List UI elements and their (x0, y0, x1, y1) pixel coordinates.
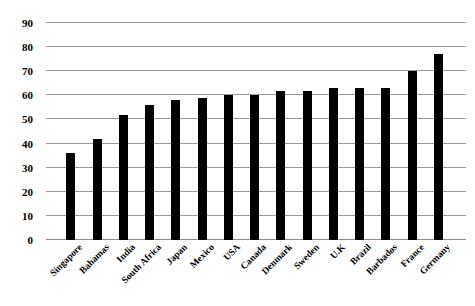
bar (276, 91, 285, 240)
bar-series (46, 23, 466, 240)
y-axis-tick-label: 60 (0, 89, 38, 101)
plot-area (46, 23, 466, 240)
y-axis-tick-label: 30 (0, 162, 38, 174)
bar (198, 98, 207, 240)
bar (66, 153, 75, 240)
y-axis-tick-label: 40 (0, 138, 38, 150)
y-axis-tick-label: 90 (0, 17, 38, 29)
bar (355, 88, 364, 240)
y-axis-tick-label: 50 (0, 113, 38, 125)
bar (224, 95, 233, 240)
bar (119, 115, 128, 240)
bar (381, 88, 390, 240)
y-axis-tick-label: 10 (0, 210, 38, 222)
bar (145, 105, 154, 240)
bar (250, 95, 259, 240)
bar-chart: 0102030405060708090 SingaporeBahamasIndi… (0, 0, 475, 306)
y-axis-tick-label: 20 (0, 186, 38, 198)
x-axis-labels: SingaporeBahamasIndiaSouth AfricaJapanMe… (46, 242, 466, 306)
bar (408, 71, 417, 240)
y-axis-tick-label: 0 (0, 234, 38, 246)
bar (303, 91, 312, 240)
bar (434, 54, 443, 240)
bar (93, 139, 102, 240)
bar (329, 88, 338, 240)
y-axis: 0102030405060708090 (0, 0, 46, 306)
y-axis-tick-label: 80 (0, 41, 38, 53)
bar (171, 100, 180, 240)
y-axis-tick-label: 70 (0, 65, 38, 77)
